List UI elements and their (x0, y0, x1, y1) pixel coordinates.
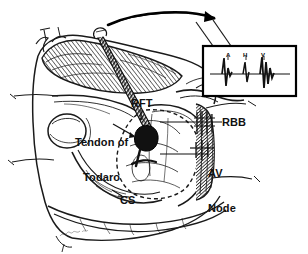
label-tendon-of-todaro-line2: Todaro (75, 172, 128, 184)
electrogram-label-a: A (226, 52, 230, 58)
label-tendon-of-todaro: Tendon of Todaro (75, 114, 128, 206)
label-av-node-line1: AV (208, 168, 236, 180)
label-av-node-line2: Node (208, 203, 236, 215)
label-av-node: AV Node (208, 145, 236, 237)
electrogram-inset (203, 46, 296, 96)
label-rft: RFT (131, 98, 153, 110)
illustration-artwork (0, 0, 308, 254)
label-tendon-of-todaro-line1: Tendon of (75, 137, 128, 149)
electrogram-label-h: H (243, 52, 247, 58)
electrogram-label-v: V (261, 52, 265, 58)
label-rbb: RBB (222, 117, 246, 129)
cardiac-ablation-figure: RFT Tendon of Todaro RBB AV Node CS A H … (0, 0, 308, 254)
label-cs: CS (120, 195, 135, 207)
